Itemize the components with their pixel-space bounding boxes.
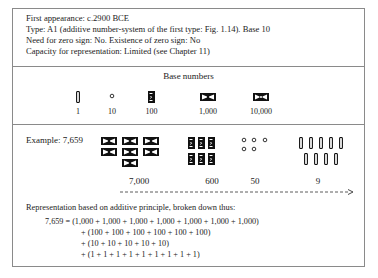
- example-label: Example: 7,659: [26, 135, 83, 145]
- equation-line-2: + (100 + 100 + 100 + 100 + 100 + 100): [81, 227, 210, 238]
- vertical-stroke-icon: [299, 137, 349, 167]
- equation-line-4: + (1 + 1 + 1 + 1 + 1 + 1 + 1 + 1 + 1): [81, 249, 200, 260]
- base-number-100: 100: [148, 91, 155, 103]
- representation-intro: Representation based on additive princip…: [26, 203, 235, 212]
- type-text: Type: A1 (additive number-system of the …: [26, 24, 270, 35]
- bowtie-cartouche-icon: [200, 93, 216, 101]
- base-number-label: 10,000: [250, 107, 272, 116]
- base-number-10: 10: [109, 93, 115, 99]
- numeral-system-info-box: First appearance: c.2900 BCE Type: A1 (a…: [12, 8, 365, 267]
- direction-arrow-icon: [120, 189, 354, 195]
- glyph-group-600: [188, 137, 216, 167]
- group-value-50: 50: [251, 176, 260, 186]
- zero-sign-text: Need for zero sign: No. Existence of zer…: [26, 35, 200, 46]
- capacity-text: Capacity for representation: Limited (se…: [26, 46, 210, 57]
- group-value-600: 600: [205, 176, 219, 186]
- rectangle-coil-icon: [188, 137, 216, 167]
- base-number-label: 1,000: [199, 107, 217, 116]
- small-circle-icon: [241, 137, 271, 153]
- group-value-7000: 7,000: [129, 176, 149, 186]
- group-value-9: 9: [316, 176, 321, 186]
- bowtie-cartouche-dot-icon: [253, 93, 269, 101]
- example-section: Example: 7,659: [13, 125, 364, 268]
- base-numbers-title: Base numbers: [13, 71, 364, 81]
- base-number-1000: 1,000: [200, 93, 216, 101]
- base-number-label: 1: [76, 107, 80, 116]
- base-numbers-section: Base numbers 1 10 100 1,000 10,000: [13, 67, 364, 125]
- glyph-group-50: [241, 137, 271, 153]
- base-number-1: 1: [76, 91, 80, 103]
- equation-line-3: + (10 + 10 + 10 + 10 + 10): [81, 238, 169, 249]
- glyph-group-9: [299, 137, 349, 167]
- vertical-stroke-icon: [76, 91, 80, 103]
- base-number-label: 10: [108, 107, 116, 116]
- bowtie-cartouche-icon: [101, 137, 161, 173]
- base-number-label: 100: [146, 107, 158, 116]
- rectangle-coil-icon: [148, 91, 155, 103]
- glyph-group-7000: [101, 137, 161, 173]
- first-appearance-text: First appearance: c.2900 BCE: [26, 13, 129, 24]
- equation-line-1: 7,659 = (1,000 + 1,000 + 1,000 + 1,000 +…: [45, 216, 259, 227]
- base-number-10000: 10,000: [253, 93, 269, 101]
- system-summary-section: First appearance: c.2900 BCE Type: A1 (a…: [13, 9, 364, 67]
- small-circle-icon: [109, 93, 115, 99]
